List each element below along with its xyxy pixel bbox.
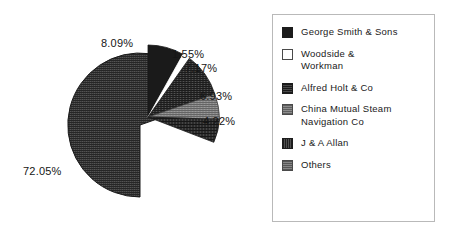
legend-item-others[interactable]: Others <box>282 159 428 172</box>
legend-item-label: Woodside & Workman <box>301 48 355 73</box>
legend-box: George Smith & Sons Woodside & Workman A… <box>272 14 435 222</box>
legend-item-j-a-allan[interactable]: J & A Allan <box>282 137 428 150</box>
slice-value-label-george-smith-sons: 8.09% <box>101 37 133 49</box>
legend-swatch-icon <box>282 83 293 94</box>
legend-item-label: George Smith & Sons <box>301 26 398 39</box>
slice-value-label-j-a-allan: 4.22% <box>203 115 235 127</box>
legend-item-label: J & A Allan <box>301 137 349 150</box>
slice-value-label-china-mutual-steam: 6.93% <box>200 90 232 102</box>
pie-chart-figure: 8.09% 1.55% 7.17% 6.93% 4.22% 72.05% Geo… <box>0 0 461 239</box>
legend-item-alfred-holt-co[interactable]: Alfred Holt & Co <box>282 82 428 95</box>
legend-swatch-icon <box>282 104 293 115</box>
legend-swatch-icon <box>282 138 293 149</box>
legend-item-label: Others <box>301 159 331 172</box>
legend-item-label: China Mutual Steam Navigation Co <box>301 103 392 128</box>
legend-items: George Smith & Sons Woodside & Workman A… <box>282 26 428 217</box>
legend-swatch-icon <box>282 160 293 171</box>
legend-item-george-smith-sons[interactable]: George Smith & Sons <box>282 26 428 39</box>
legend-item-china-mutual-steam-navigation-co[interactable]: China Mutual Steam Navigation Co <box>282 103 428 128</box>
legend-swatch-icon <box>282 49 293 60</box>
legend-item-woodside-workman[interactable]: Woodside & Workman <box>282 48 428 73</box>
legend-swatch-icon <box>282 27 293 38</box>
slice-value-label-woodside-workman: 1.55% <box>172 48 204 60</box>
pie-plot-area: 8.09% 1.55% 7.17% 6.93% 4.22% 72.05% <box>0 0 265 239</box>
slice-value-label-alfred-holt-co: 7.17% <box>185 62 217 74</box>
slice-value-label-others: 72.05% <box>23 165 62 177</box>
legend-item-label: Alfred Holt & Co <box>301 82 373 95</box>
